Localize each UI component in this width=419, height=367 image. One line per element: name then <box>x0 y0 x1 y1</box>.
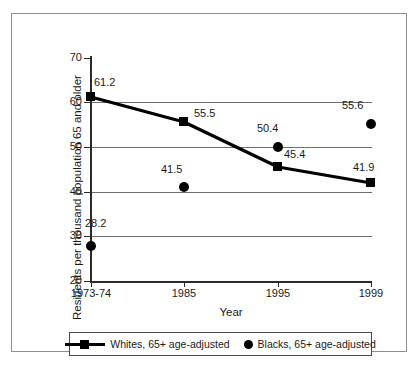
data-label-whites-1973-74: 61.2 <box>94 76 115 88</box>
data-label-blacks-1995: 50.4 <box>257 122 278 134</box>
blacks-marker-1985 <box>179 182 189 192</box>
whites-marker-1973-74 <box>86 92 95 101</box>
whites-marker-1995 <box>273 162 282 171</box>
data-label-blacks-1985: 41.5 <box>161 163 182 175</box>
whites-marker-1985 <box>179 117 188 126</box>
data-label-whites-1985: 55.5 <box>194 107 215 119</box>
data-label-whites-1995: 45.4 <box>284 148 305 160</box>
legend-item-whites[interactable]: Whites, 65+ age-adjusted <box>65 338 229 350</box>
legend-item-blacks[interactable]: Blacks, 65+ age-adjusted <box>244 338 376 350</box>
circle-marker-icon <box>244 340 253 349</box>
legend-label-whites: Whites, 65+ age-adjusted <box>110 338 229 350</box>
legend-items: Whites, 65+ age-adjusted Blacks, 65+ age… <box>70 333 371 355</box>
square-line-marker-icon <box>65 339 105 349</box>
whites-marker-1999 <box>366 178 375 187</box>
blacks-marker-1973-74 <box>86 241 96 251</box>
whites-series-line <box>12 14 408 353</box>
chart-legend: Whites, 65+ age-adjusted Blacks, 65+ age… <box>69 332 372 356</box>
data-label-blacks-1999: 55.6 <box>342 99 363 111</box>
blacks-marker-1995 <box>273 142 283 152</box>
chart-frame: Residents per thousand population 65 and… <box>11 13 407 352</box>
data-label-blacks-1973-74: 28.2 <box>85 217 106 229</box>
legend-label-blacks: Blacks, 65+ age-adjusted <box>258 338 376 350</box>
data-label-whites-1999: 41.9 <box>353 161 374 173</box>
blacks-marker-1999 <box>366 119 376 129</box>
